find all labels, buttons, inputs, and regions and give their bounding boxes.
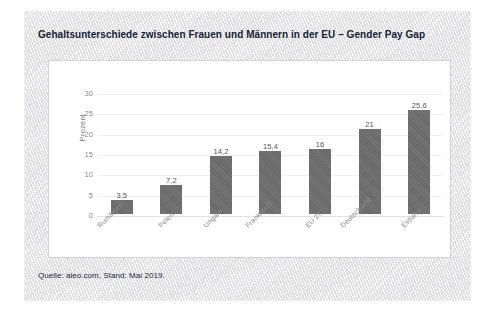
infographic-card: Gehaltsunterschiede zwischen Frauen und …	[25, 12, 470, 300]
bar-series: 3,5Rumänien7,2Polen14,2Ungarn15,4Frankre…	[97, 61, 444, 257]
bar	[309, 149, 331, 214]
bar-group: 15,4Frankreich	[246, 61, 296, 257]
bar-value-label: 3,5	[116, 191, 127, 200]
plot-area: Prozent 051015202530 3,5Rumänien7,2Polen…	[49, 61, 450, 257]
bar-group: 25,6Estland	[394, 61, 444, 257]
y-tick-label: 15	[71, 151, 93, 159]
y-tick-label: 25	[71, 110, 93, 118]
bar	[160, 185, 182, 214]
bar-group: 14,2Ungarn	[196, 61, 246, 257]
x-tick-label: Polen	[157, 211, 175, 229]
bar-group: 21Deutschland	[345, 61, 395, 257]
y-tick-label: 5	[71, 192, 93, 200]
y-tick-label: 0	[71, 212, 93, 220]
source-note: Quelle: aleo.com, Stand: Mai 2019.	[38, 271, 165, 280]
y-tick-label: 10	[71, 171, 93, 179]
bar-value-label: 7,2	[166, 176, 177, 185]
screenshot-root: Gehaltsunterschiede zwischen Frauen und …	[0, 0, 494, 323]
bar-group: 7,2Polen	[147, 61, 197, 257]
x-tick-label: EU 27	[304, 210, 323, 229]
bar	[210, 156, 232, 214]
bar-group: 3,5Rumänien	[97, 61, 147, 257]
bar-value-label: 16	[316, 140, 325, 149]
y-tick-label: 20	[71, 131, 93, 139]
bar-value-label: 21	[365, 120, 374, 129]
bar-value-label: 15,4	[263, 142, 278, 151]
bar-value-label: 14,2	[213, 147, 228, 156]
bar	[408, 110, 430, 214]
bar-group: 16EU 27	[295, 61, 345, 257]
bar-value-label: 25,6	[412, 101, 427, 110]
page-title: Gehaltsunterschiede zwischen Frauen und …	[38, 29, 458, 41]
y-tick-label: 30	[71, 90, 93, 98]
bar-chart-panel: Prozent 051015202530 3,5Rumänien7,2Polen…	[48, 60, 451, 258]
